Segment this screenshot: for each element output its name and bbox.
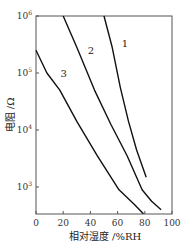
y-tick-label: 105 [17,66,32,78]
x-tick-label: 20 [57,218,69,228]
curves [36,16,161,214]
x-tick-label: 100 [163,218,180,228]
x-tick-label: 80 [139,218,151,228]
y-axis-title: 电阻 /Ω [4,98,16,133]
x-tick-label: 0 [33,218,39,228]
curve-label-2: 2 [88,45,94,56]
curve-label-3: 3 [60,68,66,79]
x-axis-title: 相对湿度 /%RH [69,230,142,242]
x-tick-label: 40 [85,218,97,228]
x-tick-label: 60 [112,218,124,228]
curve-3 [36,50,143,214]
y-tick-label: 104 [17,123,32,135]
y-tick-label: 103 [17,180,32,192]
chart: 103104105106 020406080100 123 电阻 /Ω 相对湿度… [0,0,189,250]
plot-frame [36,16,172,214]
curve-label-1: 1 [122,38,128,49]
y-tick-label: 106 [17,9,32,21]
